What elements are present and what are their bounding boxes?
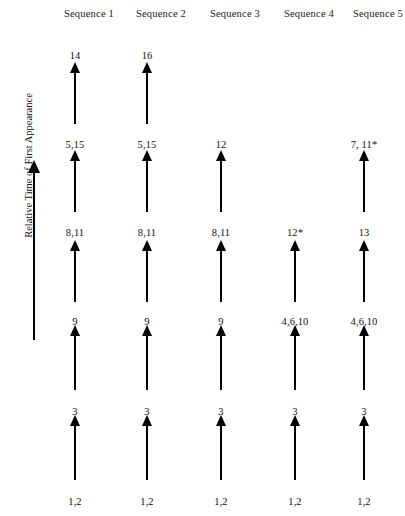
arrow-shaft [74, 249, 76, 302]
y-axis-label: Relative Time of First Appearance [23, 76, 34, 256]
node-label: 1,2 [68, 496, 81, 507]
arrow-shaft [146, 424, 148, 480]
node-label: 14 [70, 50, 81, 61]
column-header-3: Sequence 3 [210, 8, 260, 19]
transition-arrow-icon [69, 415, 81, 480]
transition-arrow-icon [69, 325, 81, 390]
node-label: 9 [72, 316, 77, 327]
transition-arrow-icon [215, 240, 227, 302]
node-label: 8,11 [212, 227, 230, 238]
node-label: 16 [142, 50, 153, 61]
arrow-head-icon [359, 150, 369, 161]
y-axis: Relative Time of First Appearance [0, 0, 50, 516]
arrow-shaft [220, 334, 222, 390]
column-header-4: Sequence 4 [284, 8, 334, 19]
arrow-shaft [294, 334, 296, 390]
arrow-shaft [146, 71, 148, 124]
arrow-shaft [146, 159, 148, 212]
transition-arrow-icon [289, 415, 301, 480]
node-label: 8,11 [66, 227, 84, 238]
transition-arrow-icon [141, 415, 153, 480]
node-label: 5,15 [138, 139, 157, 150]
transition-arrow-icon [141, 240, 153, 302]
transition-arrow-icon [358, 150, 370, 212]
node-label: 1,2 [140, 496, 153, 507]
transition-arrow-icon [215, 325, 227, 390]
column-header-5: Sequence 5 [353, 8, 403, 19]
arrow-head-icon [216, 150, 226, 161]
node-label: 12* [287, 227, 303, 238]
arrow-head-icon [359, 240, 369, 251]
arrow-head-icon [290, 240, 300, 251]
node-label: 4,6,10 [282, 316, 309, 327]
arrow-shaft [74, 159, 76, 212]
arrow-shaft [363, 159, 365, 212]
node-label: 3 [292, 406, 297, 417]
arrow-shaft [146, 334, 148, 390]
arrow-shaft [220, 159, 222, 212]
node-label: 13 [359, 227, 370, 238]
node-label: 7, 11* [351, 139, 377, 150]
arrow-head-icon [142, 150, 152, 161]
node-label: 4,6,10 [351, 316, 378, 327]
arrow-head-icon [142, 62, 152, 73]
arrow-head-icon [70, 150, 80, 161]
transition-arrow-icon [69, 62, 81, 124]
arrow-shaft [363, 424, 365, 480]
arrow-shaft [363, 249, 365, 302]
column-header-1: Sequence 1 [64, 8, 114, 19]
node-label: 3 [144, 406, 149, 417]
node-label: 3 [218, 406, 223, 417]
arrow-shaft [74, 424, 76, 480]
transition-arrow-icon [358, 325, 370, 390]
arrow-shaft [74, 71, 76, 124]
node-label: 9 [218, 316, 223, 327]
arrow-shaft [74, 334, 76, 390]
arrow-head-icon [142, 240, 152, 251]
sequence-progression-diagram: Relative Time of First Appearance Sequen… [0, 0, 405, 516]
transition-arrow-icon [215, 415, 227, 480]
node-label: 9 [144, 316, 149, 327]
node-label: 8,11 [138, 227, 156, 238]
column-header-2: Sequence 2 [136, 8, 186, 19]
transition-arrow-icon [141, 150, 153, 212]
node-label: 1,2 [357, 496, 370, 507]
transition-arrow-icon [69, 150, 81, 212]
node-label: 1,2 [214, 496, 227, 507]
transition-arrow-icon [289, 240, 301, 302]
transition-arrow-icon [358, 415, 370, 480]
arrow-shaft [146, 249, 148, 302]
transition-arrow-icon [215, 150, 227, 212]
arrow-shaft [294, 424, 296, 480]
arrow-head-icon [70, 62, 80, 73]
arrow-head-icon [70, 240, 80, 251]
transition-arrow-icon [69, 240, 81, 302]
arrow-shaft [294, 249, 296, 302]
node-label: 5,15 [66, 139, 85, 150]
node-label: 1,2 [288, 496, 301, 507]
arrow-shaft [220, 424, 222, 480]
transition-arrow-icon [289, 325, 301, 390]
node-label: 12 [216, 139, 227, 150]
arrow-shaft [220, 249, 222, 302]
transition-arrow-icon [141, 325, 153, 390]
transition-arrow-icon [358, 240, 370, 302]
arrow-shaft [363, 334, 365, 390]
node-label: 3 [361, 406, 366, 417]
arrow-head-icon [216, 240, 226, 251]
transition-arrow-icon [141, 62, 153, 124]
node-label: 3 [72, 406, 77, 417]
